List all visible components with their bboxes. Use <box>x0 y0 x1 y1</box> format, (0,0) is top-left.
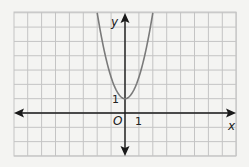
coordinate-plane: y x O 1 1 <box>0 0 249 167</box>
x-axis-label: x <box>227 119 236 133</box>
x-tick-label-1: 1 <box>135 115 142 128</box>
y-axis-label: y <box>110 15 119 29</box>
origin-label: O <box>113 114 122 128</box>
y-tick-label-1: 1 <box>112 93 119 106</box>
